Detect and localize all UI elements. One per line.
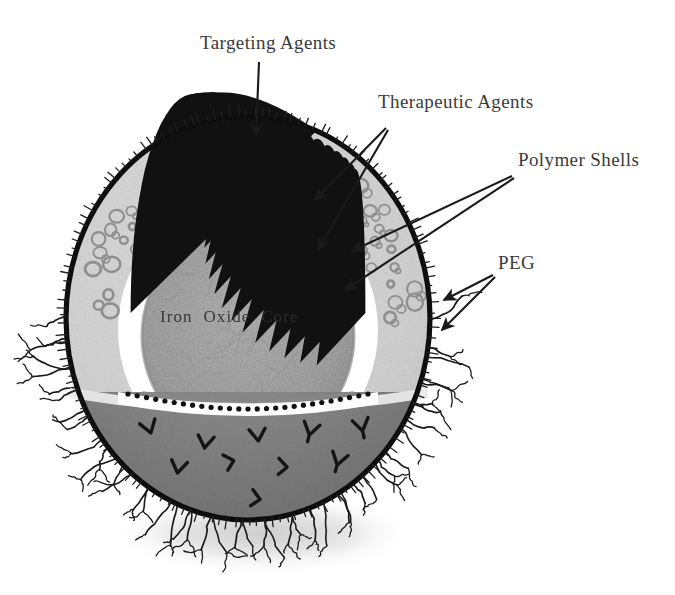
peg-bristle bbox=[368, 470, 376, 478]
charge-dot bbox=[190, 403, 195, 408]
peg-branch bbox=[408, 468, 416, 486]
charge-dot bbox=[153, 397, 158, 402]
peg-branch bbox=[441, 412, 451, 430]
peg-bristle bbox=[59, 342, 67, 343]
label-therapeutic-agents: Therapeutic Agents bbox=[378, 91, 533, 112]
peg-branch bbox=[469, 367, 473, 378]
charge-dot bbox=[292, 404, 297, 409]
charge-dot bbox=[125, 391, 130, 396]
nanoparticle-diagram: Targeting Agents Therapeutic Agents Poly… bbox=[0, 0, 675, 595]
peg-chain bbox=[428, 347, 451, 356]
charge-dot bbox=[245, 406, 250, 411]
peg-branch bbox=[452, 381, 468, 390]
peg-branch bbox=[89, 491, 103, 497]
peg-branch bbox=[452, 391, 463, 403]
peg-chain bbox=[405, 420, 434, 429]
peg-branch bbox=[23, 364, 32, 376]
charge-dot bbox=[172, 400, 177, 405]
charge-dot bbox=[199, 404, 204, 409]
charge-dot bbox=[365, 391, 370, 396]
peg-chain bbox=[60, 410, 86, 423]
peg-branch bbox=[81, 480, 84, 492]
peg-bristle bbox=[429, 338, 435, 339]
peg-chain bbox=[362, 476, 377, 500]
peg-bristle bbox=[105, 177, 113, 183]
peg-branch bbox=[88, 470, 100, 486]
peg-branch bbox=[418, 455, 421, 464]
peg-bristle bbox=[56, 335, 67, 336]
charge-dot bbox=[273, 405, 278, 410]
peg-branch bbox=[434, 428, 447, 438]
peg-branch bbox=[68, 476, 80, 480]
peg-branch bbox=[432, 390, 439, 404]
charge-dot bbox=[209, 405, 214, 410]
peg-bristle bbox=[357, 480, 363, 487]
charge-dot bbox=[135, 393, 140, 398]
peg-branch bbox=[94, 481, 114, 485]
charge-dot bbox=[338, 397, 343, 402]
peg-branch bbox=[114, 484, 120, 494]
peg-bristle bbox=[280, 517, 281, 522]
peg-bristle bbox=[429, 302, 438, 303]
peg-bristle bbox=[262, 108, 263, 117]
peg-bristle bbox=[428, 285, 432, 286]
peg-branch bbox=[56, 445, 71, 454]
peg-branch bbox=[31, 325, 47, 327]
peg-branch bbox=[63, 453, 71, 458]
charge-dot bbox=[347, 395, 352, 400]
peg-branch bbox=[397, 485, 404, 501]
charge-dot bbox=[319, 400, 324, 405]
peg-branch bbox=[395, 474, 410, 477]
peg-bristle bbox=[342, 136, 348, 145]
peg-bristle bbox=[64, 281, 69, 282]
peg-bristle bbox=[236, 520, 237, 527]
charge-dot bbox=[236, 406, 241, 411]
charge-dot bbox=[264, 406, 269, 411]
label-polymer-shells: Polymer Shells bbox=[518, 149, 639, 170]
peg-chain bbox=[71, 439, 103, 453]
peg-branch bbox=[422, 454, 435, 457]
peg-bristle bbox=[275, 113, 276, 118]
charge-dot bbox=[162, 398, 167, 403]
peg-bristle bbox=[372, 164, 378, 170]
peg-chain bbox=[385, 451, 409, 468]
peg-branch bbox=[397, 478, 406, 485]
arrow-peg-2 bbox=[442, 277, 495, 330]
charge-dot bbox=[218, 405, 223, 410]
charge-dot bbox=[144, 395, 149, 400]
peg-branch bbox=[37, 338, 45, 347]
charge-dot bbox=[255, 406, 260, 411]
peg-branch bbox=[39, 385, 49, 395]
peg-bristle bbox=[147, 137, 153, 146]
charge-dot bbox=[310, 401, 315, 406]
charge-dot bbox=[227, 406, 232, 411]
label-iron-oxide-core: Iron Oxide Core bbox=[160, 307, 299, 326]
peg-branch bbox=[40, 398, 59, 400]
peg-chain bbox=[427, 357, 470, 367]
peg-bristle bbox=[108, 172, 116, 179]
peg-chain bbox=[31, 342, 68, 350]
nanoparticle-body bbox=[66, 92, 430, 520]
charge-dot bbox=[181, 401, 186, 406]
charge-dot bbox=[301, 403, 306, 408]
peg-bristle bbox=[63, 290, 68, 291]
peg-chain bbox=[413, 404, 433, 405]
peg-branch bbox=[17, 377, 32, 384]
charge-dot bbox=[282, 405, 287, 410]
peg-bristle bbox=[389, 446, 397, 452]
peg-bristle bbox=[239, 106, 240, 117]
peg-chain bbox=[32, 366, 71, 377]
peg-bristle bbox=[429, 293, 436, 294]
peg-branch bbox=[18, 334, 31, 350]
peg-branch bbox=[451, 350, 463, 357]
charge-dot bbox=[356, 393, 361, 398]
peg-bristle bbox=[58, 299, 67, 300]
peg-branch bbox=[433, 404, 441, 411]
label-targeting-agents: Targeting Agents bbox=[200, 32, 336, 53]
peg-chain bbox=[47, 316, 66, 326]
peg-branch bbox=[99, 470, 109, 482]
charge-dot bbox=[329, 398, 334, 403]
peg-branch bbox=[18, 350, 31, 362]
peg-bristle bbox=[141, 142, 147, 150]
label-peg: PEG bbox=[498, 252, 535, 273]
